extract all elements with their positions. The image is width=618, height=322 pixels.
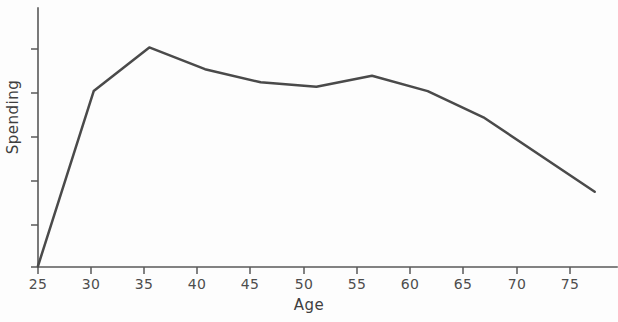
x-tick-label: 65 [445, 276, 481, 292]
chart-figure: 25 30 35 40 45 50 55 60 65 70 75 Age Spe… [0, 0, 618, 322]
x-tick-label: 50 [286, 276, 322, 292]
spending-line-series [38, 47, 595, 266]
x-tick-label: 60 [392, 276, 428, 292]
x-tick-label: 55 [339, 276, 375, 292]
x-tick-label: 75 [552, 276, 588, 292]
chart-plot-area [0, 0, 618, 322]
x-tick-label: 70 [499, 276, 535, 292]
x-axis-label: Age [0, 296, 618, 314]
y-axis-label: Spending [4, 77, 22, 157]
x-tick-label: 25 [20, 276, 56, 292]
x-axis [38, 267, 617, 274]
y-axis [31, 8, 38, 267]
x-tick-label: 45 [232, 276, 268, 292]
x-tick-label: 30 [73, 276, 109, 292]
x-tick-label: 35 [126, 276, 162, 292]
x-tick-label: 40 [179, 276, 215, 292]
